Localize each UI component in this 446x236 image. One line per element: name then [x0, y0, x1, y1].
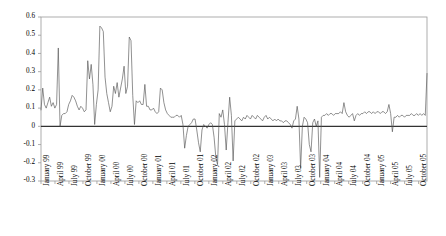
x-tick-label: July 04 [351, 165, 358, 186]
x-tick-label: July 00 [128, 165, 135, 186]
x-tick-label: April 00 [114, 162, 121, 186]
x-tick-label: October 05 [421, 154, 428, 186]
y-tick-label: 0.5 [0, 31, 35, 38]
x-tick-label: January 99 [44, 155, 51, 186]
y-tick-label: 0.3 [0, 68, 35, 75]
x-tick-label: January 02 [212, 155, 219, 186]
x-tick-label: January 00 [100, 155, 107, 186]
x-tick-label: April 99 [58, 162, 65, 186]
x-tick-label: January 05 [379, 155, 386, 186]
x-tick-label: April 03 [282, 162, 289, 186]
chart-canvas [0, 0, 446, 236]
y-tick-label: 0.4 [0, 50, 35, 57]
x-tick-label: July 02 [240, 165, 247, 186]
x-tick-label: October 01 [198, 154, 205, 186]
x-tick-label: January 01 [156, 155, 163, 186]
x-tick-label: October 99 [86, 154, 93, 186]
x-tick-label: July 05 [407, 165, 414, 186]
x-tick-label: April 02 [226, 162, 233, 186]
x-tick-label: October 00 [142, 154, 149, 186]
x-tick-label: April 05 [393, 162, 400, 186]
y-tick-label: -0.3 [0, 177, 35, 184]
x-tick-label: January 04 [324, 155, 331, 186]
y-tick-label: 0.6 [0, 13, 35, 20]
x-tick-label: October 04 [365, 154, 372, 186]
y-tick-label: 0.1 [0, 104, 35, 111]
x-tick-label: October 03 [310, 154, 317, 186]
y-axis-tick-marks [38, 17, 41, 181]
y-tick-label: 0.2 [0, 86, 35, 93]
x-tick-label: October 02 [254, 154, 261, 186]
x-tick-label: April 01 [170, 162, 177, 186]
line-chart: 0.60.50.40.30.20.10-0.1-0.2-0.3 January … [0, 0, 446, 236]
x-tick-label: July 03 [296, 165, 303, 186]
y-tick-label: 0 [0, 123, 35, 130]
x-tick-label: July 99 [72, 165, 79, 186]
x-tick-label: April 04 [337, 162, 344, 186]
y-tick-label: -0.1 [0, 141, 35, 148]
x-tick-label: January 03 [268, 155, 275, 186]
x-tick-label: July 01 [184, 165, 191, 186]
y-tick-label: -0.2 [0, 159, 35, 166]
